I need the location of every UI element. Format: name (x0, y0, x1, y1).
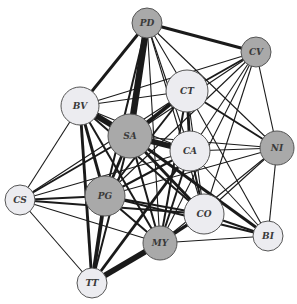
node-ni: NI (260, 131, 294, 165)
edge-ca-tt (92, 151, 190, 283)
node-label: SA (123, 131, 136, 141)
node-ct: CT (166, 70, 208, 112)
node-label: CT (180, 86, 195, 96)
node-label: CO (196, 209, 211, 219)
node-sa: SA (108, 114, 152, 158)
node-label: CA (183, 146, 197, 156)
node-cs: CS (5, 185, 35, 215)
node-tt: TT (77, 268, 107, 298)
node-cv: CV (241, 37, 271, 67)
node-label: CS (13, 195, 27, 205)
node-co: CO (184, 194, 224, 234)
node-bi: BI (253, 221, 283, 251)
node-label: PG (97, 191, 113, 201)
network-diagram: PDCVBVCTSACANICSPGCOBIMYTT (0, 0, 297, 304)
node-label: MY (151, 238, 170, 248)
node-label: CV (249, 47, 264, 57)
node-bv: BV (61, 87, 99, 125)
node-ca: CA (170, 131, 210, 171)
node-label: BV (72, 101, 89, 111)
network-graph-canvas: PDCVBVCTSACANICSPGCOBIMYTT (0, 0, 297, 304)
node-label: PD (139, 18, 155, 28)
edge-cs-tt (20, 200, 92, 283)
node-label: BI (261, 231, 275, 241)
edge-pd-cv (147, 23, 256, 52)
node-pg: PG (85, 176, 125, 216)
node-pd: PD (132, 8, 162, 38)
node-my: MY (143, 226, 177, 260)
node-label: NI (270, 143, 284, 153)
node-label: TT (85, 278, 99, 288)
